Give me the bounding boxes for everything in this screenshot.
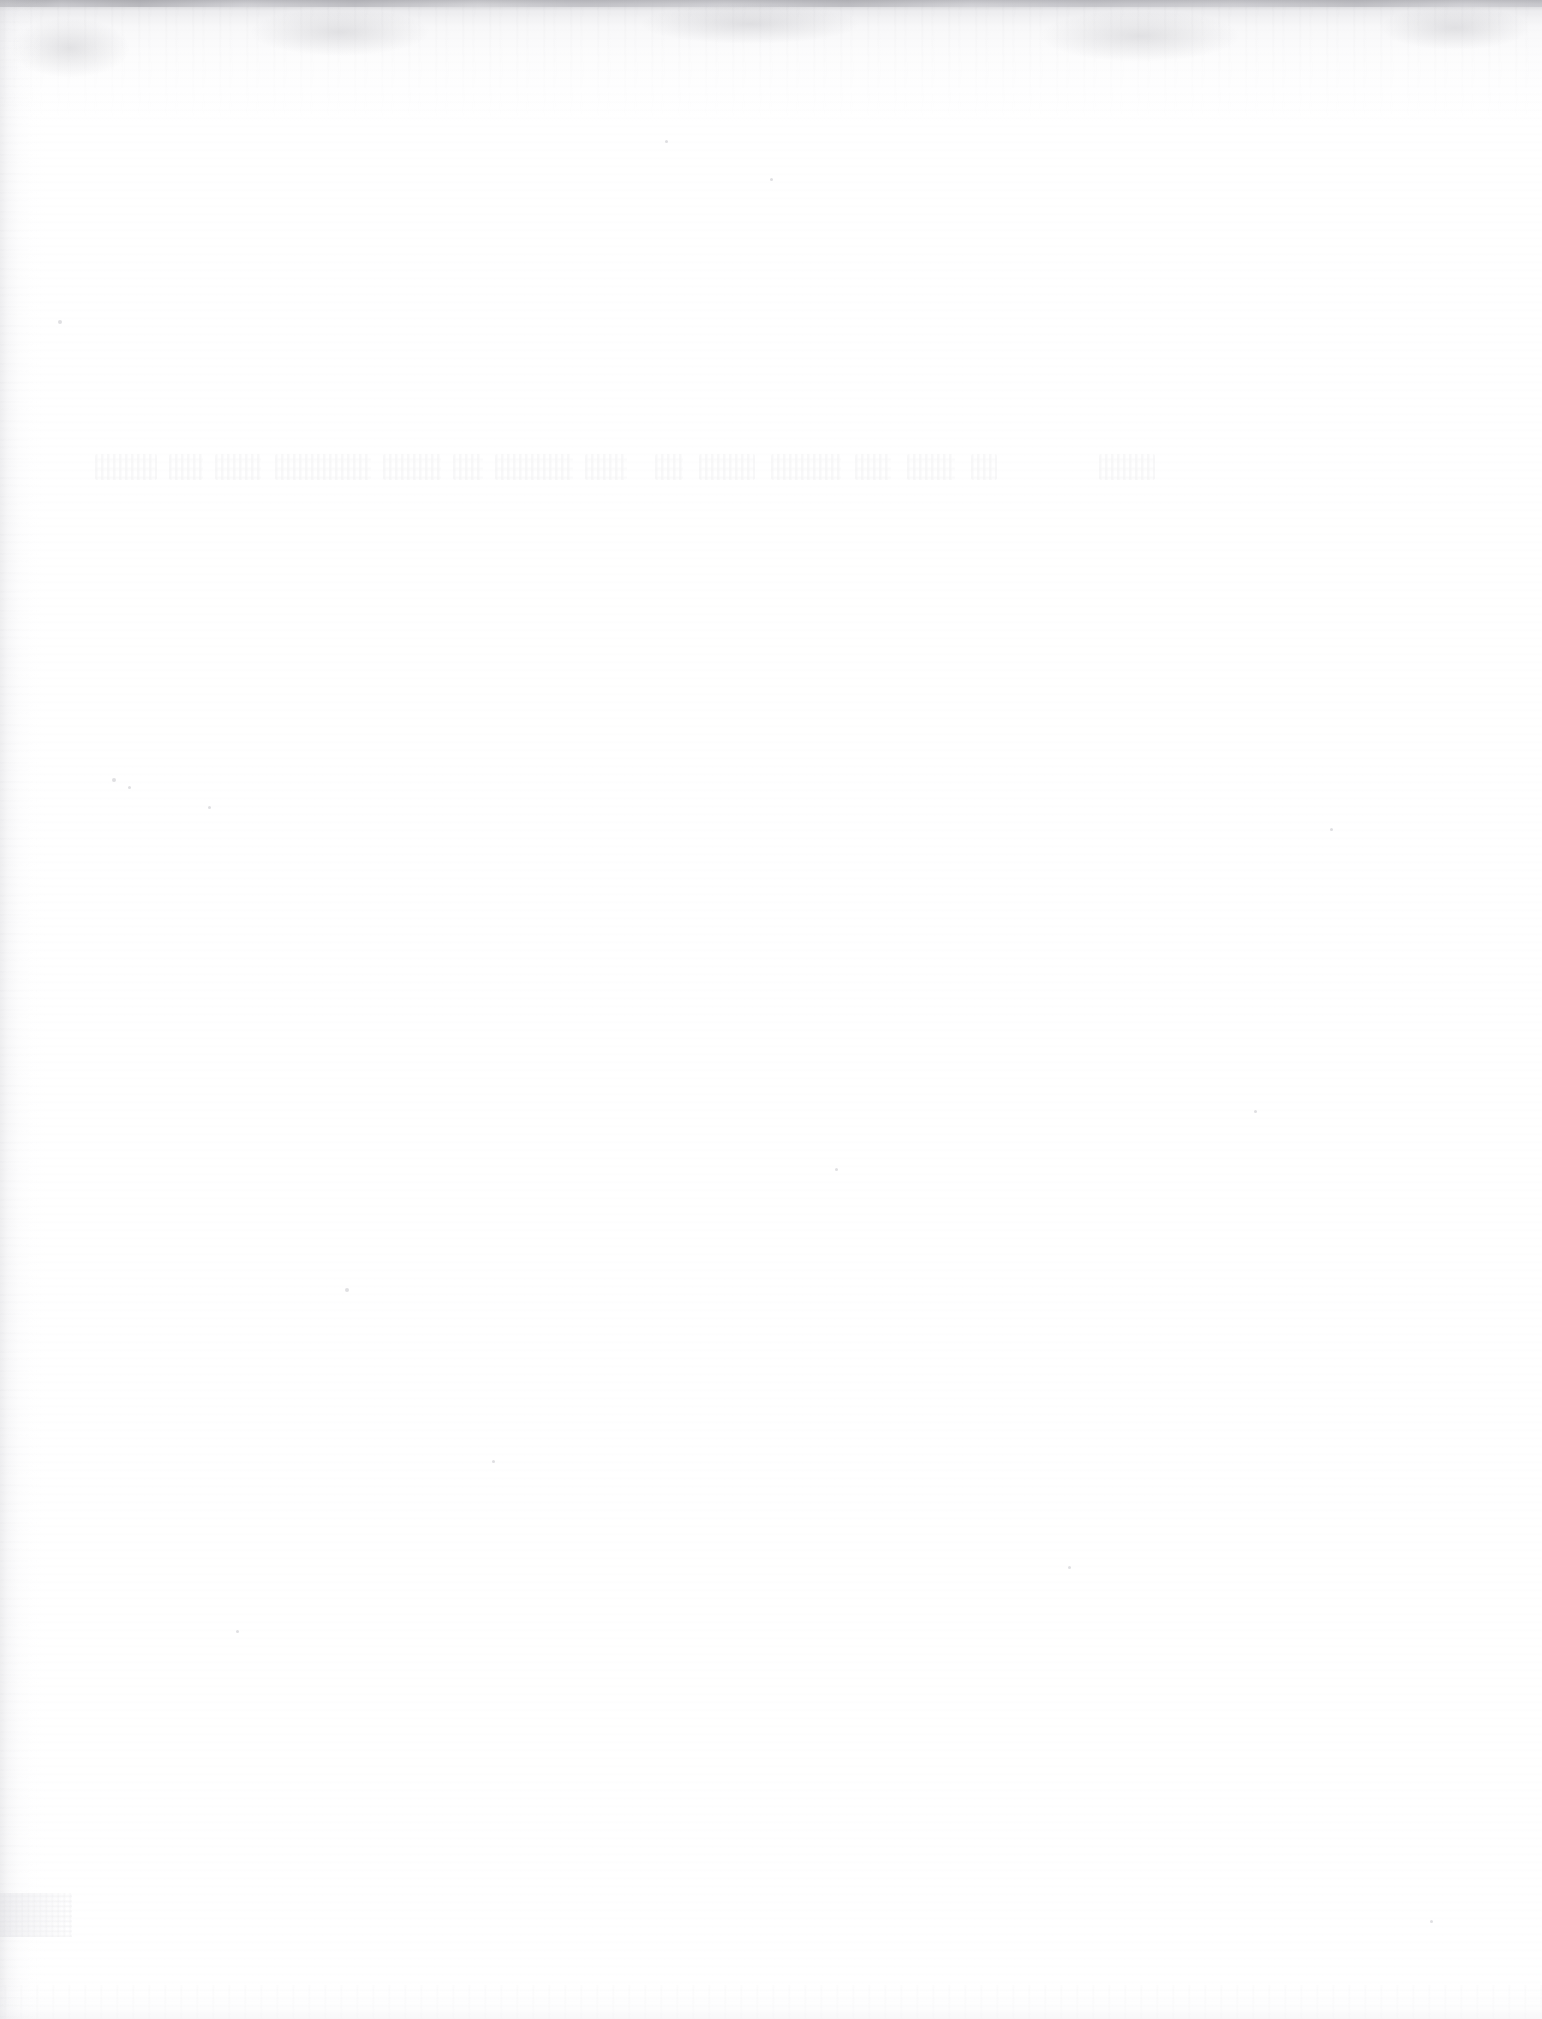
ghost-word: [585, 454, 627, 480]
ghost-word: [699, 454, 755, 480]
dust-speck: [112, 778, 116, 782]
ghost-word: [1099, 454, 1155, 480]
dust-speck: [770, 178, 773, 181]
ghost-word: [971, 454, 997, 480]
ghost-word: [495, 454, 573, 480]
dust-speck: [208, 806, 211, 809]
dust-speck: [1254, 1110, 1257, 1113]
scanned-page: [0, 0, 1542, 2019]
ghost-word: [95, 454, 157, 480]
ghost-word: [215, 454, 261, 480]
dust-speck: [1330, 828, 1333, 831]
dust-speck: [1430, 1920, 1433, 1923]
ghost-word: [383, 454, 441, 480]
scan-smudge: [640, 4, 860, 44]
ghost-word: [655, 454, 683, 480]
scan-smudge: [250, 8, 430, 56]
dust-speck: [345, 1288, 349, 1292]
paper-grain-texture: [0, 0, 1542, 2019]
ghost-text-bleedthrough: [95, 448, 1155, 492]
ghost-word: [275, 454, 371, 480]
ghost-word: [453, 454, 483, 480]
bottom-edge-noise: [0, 1985, 1542, 2019]
dust-speck: [128, 786, 131, 789]
ghost-word: [907, 454, 955, 480]
ghost-word: [169, 454, 203, 480]
scan-smudge: [1380, 6, 1530, 50]
dust-speck: [1068, 1566, 1071, 1569]
dust-speck: [665, 140, 668, 143]
dust-speck: [835, 1168, 838, 1171]
binding-gutter-texture: [0, 0, 40, 2019]
dust-speck: [236, 1630, 239, 1633]
ghost-word: [771, 454, 841, 480]
ghost-word: [855, 454, 891, 480]
bottom-left-gray-patch: [0, 1893, 72, 1937]
dust-speck: [492, 1460, 495, 1463]
scan-smudge: [1040, 10, 1240, 62]
dust-speck: [58, 320, 62, 324]
